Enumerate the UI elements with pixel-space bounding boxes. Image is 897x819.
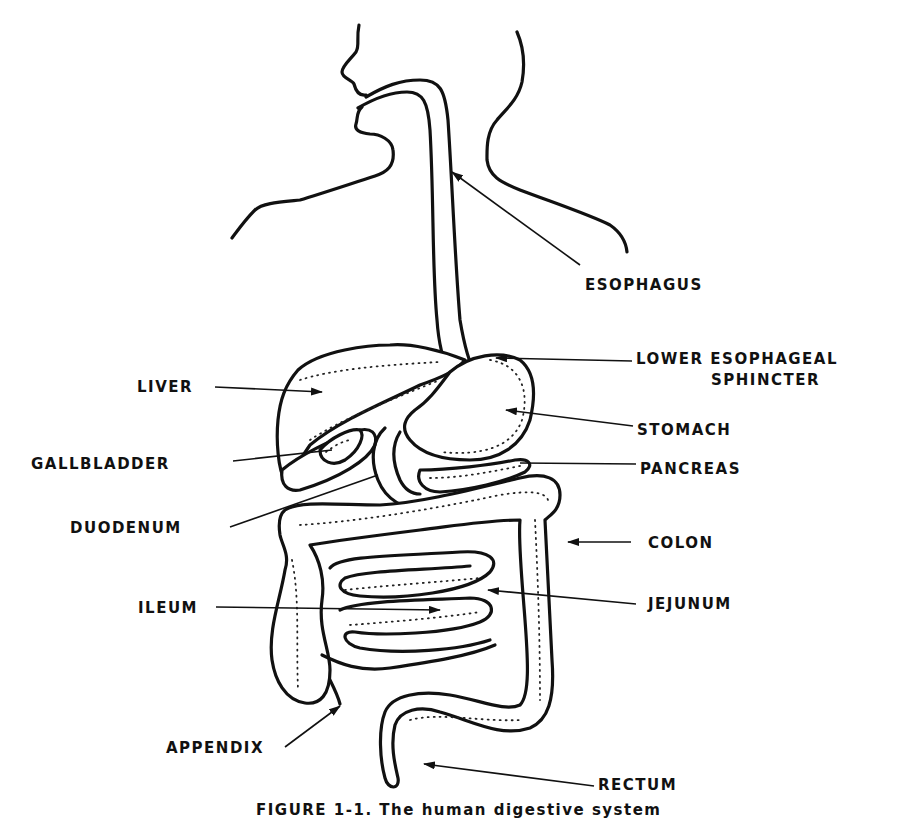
appendix bbox=[330, 680, 340, 704]
label-ileum: ILEUM bbox=[138, 600, 198, 617]
label-appendix: APPENDIX bbox=[166, 740, 264, 757]
label-gallbladder: GALLBLADDER bbox=[31, 456, 170, 473]
label-lower-esophageal-sphincter-line1: LOWER ESOPHAGEAL bbox=[636, 351, 838, 368]
label-jejunum: JEJUNUM bbox=[648, 596, 732, 613]
figure-caption: FIGURE 1-1. The human digestive system bbox=[256, 801, 662, 819]
esophagus bbox=[358, 80, 476, 375]
label-duodenum: DUODENUM bbox=[70, 520, 182, 537]
colon bbox=[271, 476, 560, 787]
small-intestine bbox=[322, 552, 495, 669]
label-lower-esophageal-sphincter-line2: SPHINCTER bbox=[711, 372, 820, 389]
label-colon: COLON bbox=[648, 535, 714, 552]
label-pancreas: PANCREAS bbox=[640, 461, 741, 478]
label-stomach: STOMACH bbox=[637, 422, 731, 439]
label-rectum: RECTUM bbox=[598, 777, 677, 794]
label-liver: LIVER bbox=[137, 379, 193, 396]
label-esophagus: ESOPHAGUS bbox=[585, 277, 703, 294]
